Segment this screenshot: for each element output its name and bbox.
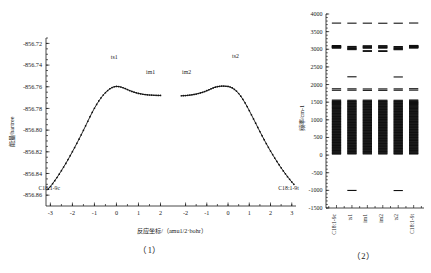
panel1-irc-point <box>238 93 240 95</box>
panel1-caption: （1） <box>0 243 300 255</box>
panel2-y-axis-title: 频率/cm-1 <box>298 105 306 131</box>
panel1-irc-point <box>261 135 263 137</box>
panel1-irc-point <box>63 166 65 168</box>
panel1-irc-point <box>278 164 280 166</box>
panel1-label-im1: im1 <box>146 69 155 75</box>
frequency-plot-svg: 40003500300025002000150010005000-500-100… <box>296 0 431 249</box>
panel1-irc-point <box>285 173 287 175</box>
panel1-x-tick-label: 0 <box>115 209 118 216</box>
panel1-irc-point <box>91 112 93 114</box>
panel1-irc-point <box>105 92 107 94</box>
panel1-irc-point <box>122 87 124 89</box>
panel1-irc-point <box>229 86 231 88</box>
panel1-x-tick-label: 1 <box>137 209 140 216</box>
panel1-irc-point <box>58 173 60 175</box>
panel1-irc-point <box>127 89 129 91</box>
panel1-irc-point <box>276 161 278 163</box>
panel2-y-tick-label: 500 <box>314 134 323 140</box>
figure-container: -856.72-856.74-856.76-856.78-856.80-856.… <box>0 0 431 273</box>
panel1-label-ts1: ts1 <box>111 54 118 60</box>
panel1-irc-point <box>214 86 216 88</box>
panel1-irc-point <box>111 87 113 89</box>
panel1-irc-point <box>160 95 162 97</box>
panel1-irc-point <box>157 95 159 97</box>
panel1-irc-point <box>212 87 214 89</box>
panel1-irc-point <box>210 88 212 90</box>
panel1-irc-point <box>107 90 109 92</box>
panel1-label-ts2: ts2 <box>232 53 239 59</box>
panel1-x-tick-label: -3 <box>48 209 53 216</box>
panel1-annotations: C18:1-9cts1im1im2ts2C18:1-9t <box>39 53 300 191</box>
panel2-category-ts1: ts1 <box>347 214 353 221</box>
panel1-irc-point <box>253 118 255 120</box>
panel2-y-tick-label: 1500 <box>311 99 323 105</box>
panel1-irc-point <box>124 88 126 90</box>
panel1-irc-point <box>113 86 115 88</box>
panel2-y-tick-label: 4000 <box>311 11 323 17</box>
panel1-irc-point <box>287 176 289 178</box>
panel2-y-tick-label: 3500 <box>311 29 323 35</box>
panel1-irc-point <box>149 94 151 96</box>
panel1-irc-point <box>217 86 219 88</box>
panel1-irc-point <box>200 92 202 94</box>
panel1-y-tick-label: -856.72 <box>23 40 42 47</box>
panel1-irc-point <box>96 104 98 106</box>
panel1-x-tick-label: 3 <box>290 209 293 216</box>
panel1-irc-point <box>187 94 189 96</box>
panel1-x-tick-label: -1 <box>92 209 97 216</box>
panel2-category-im1: im1 <box>362 214 368 223</box>
panel2-y-tick-label: 3000 <box>311 46 323 52</box>
panel1-x-tick-label: 2 <box>269 209 272 216</box>
panel1-x-tick-labels: -3-2-1012-2-10123 <box>48 209 293 216</box>
panel2-y-tick-label: -1500 <box>309 205 323 211</box>
panel1-x-axis-title: 反应坐标/（amu1/2·bohr） <box>137 227 207 235</box>
panel2-y-tick-label: 1000 <box>311 117 323 123</box>
panel2-category-C181-9c: C18:1-9c <box>331 213 337 234</box>
panel1-y-tick-label: -856.80 <box>23 126 42 133</box>
panel2-y-tick-label: 0 <box>320 152 323 158</box>
panel1-x-tick-label: -2 <box>183 209 188 216</box>
panel1-x-tick-label: -1 <box>204 209 209 216</box>
panel1-irc-point <box>208 89 210 91</box>
panel2-y-tick-label: 2000 <box>311 82 323 88</box>
panel1-irc-point <box>221 85 223 87</box>
panel1-irc-point <box>78 138 80 140</box>
panel1-irc-point <box>282 170 284 172</box>
panel1-irc-point <box>146 94 148 96</box>
panel1-y-tick-label: -856.74 <box>23 61 42 68</box>
panel1-irc-point <box>69 155 71 157</box>
panel1-irc-point <box>76 143 78 145</box>
panel1-irc-point <box>98 100 100 102</box>
panel2-category-im2: im2 <box>378 214 384 223</box>
panel1-irc-point <box>274 157 276 159</box>
panel1-irc-point <box>80 134 82 136</box>
panel1-y-tick-label: -856.86 <box>23 191 42 198</box>
panel1-irc-point <box>280 167 282 169</box>
panel2-caption: （2） <box>296 249 431 261</box>
panel1-irc-point <box>153 94 155 96</box>
panel1-y-tick-label: -856.84 <box>23 170 42 177</box>
panel1-y-tick-label: -856.76 <box>23 83 42 90</box>
panel1-axes <box>46 38 296 206</box>
panel1-irc-point <box>246 106 248 108</box>
panel1-irc-point <box>291 181 293 183</box>
panel2-y-tick-label: -500 <box>312 170 323 176</box>
panel1-x-tick-label: 0 <box>226 209 229 216</box>
panel1-irc-point <box>61 170 63 172</box>
panel1-irc-point <box>270 150 272 152</box>
panel1-y-tick-labels: -856.72-856.74-856.76-856.78-856.80-856.… <box>23 40 42 199</box>
panel1-irc-point <box>83 130 85 132</box>
panel1-irc-point <box>116 86 118 88</box>
panel1-irc-point <box>255 122 257 124</box>
panel1-irc-point <box>225 85 227 87</box>
panel1-irc-point <box>251 114 253 116</box>
panel1-irc-point <box>142 93 144 95</box>
panel1-irc-point <box>151 94 153 96</box>
panel1-irc-point <box>219 85 221 87</box>
panel1-irc-point <box>204 91 206 93</box>
panel1-irc-point <box>155 94 157 96</box>
panel1-irc-point <box>289 178 291 180</box>
panel1-irc-point <box>189 94 191 96</box>
panel1-irc-point <box>185 95 187 97</box>
panel1-y-axis-title: 能量/hartree <box>8 116 16 147</box>
